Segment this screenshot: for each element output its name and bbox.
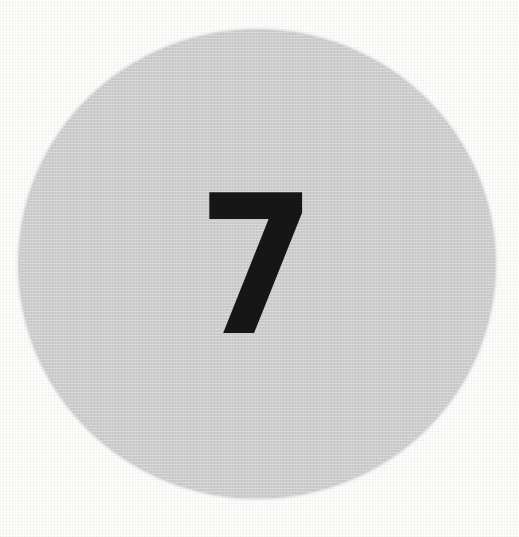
circle-number: 7 (198, 171, 316, 363)
number-circle: 7 (19, 30, 495, 498)
